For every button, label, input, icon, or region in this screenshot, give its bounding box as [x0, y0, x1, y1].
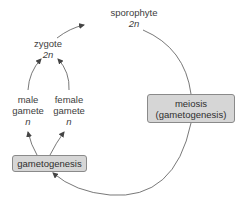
male-gamete-node: male gamete n [10, 94, 46, 127]
arrow-zygote-to-sporophyte [57, 25, 84, 38]
arrow-male-to-zygote [28, 59, 41, 90]
arrow-gametogenesis-to-female [50, 132, 64, 155]
male-gamete-ploidy: n [10, 116, 46, 127]
meiosis-line2: (gametogenesis) [156, 109, 227, 120]
arrow-female-to-zygote [58, 59, 69, 90]
sporophyte-node: sporophyte 2n [108, 7, 160, 29]
arc-sporophyte-to-meiosis [143, 30, 191, 94]
arrow-gametogenesis-to-male [28, 132, 37, 155]
male-gamete-line2: gamete [10, 105, 46, 116]
gametogenesis-box: gametogenesis [12, 155, 87, 172]
female-gamete-ploidy: n [50, 116, 88, 127]
female-gamete-node: female gamete n [50, 94, 88, 127]
meiosis-box: meiosis (gametogenesis) [147, 94, 235, 123]
female-gamete-line2: gamete [50, 105, 88, 116]
zygote-ploidy: 2n [28, 49, 68, 60]
meiosis-line1: meiosis [175, 98, 207, 109]
gametogenesis-label: gametogenesis [17, 158, 81, 169]
sporophyte-label: sporophyte [110, 7, 157, 18]
sporophyte-ploidy: 2n [108, 18, 160, 29]
female-gamete-line1: female [50, 94, 88, 105]
life-cycle-diagram: sporophyte 2n zygote 2n male gamete n fe… [0, 0, 251, 204]
male-gamete-line1: male [10, 94, 46, 105]
zygote-node: zygote 2n [28, 38, 68, 60]
zygote-label: zygote [34, 38, 62, 49]
